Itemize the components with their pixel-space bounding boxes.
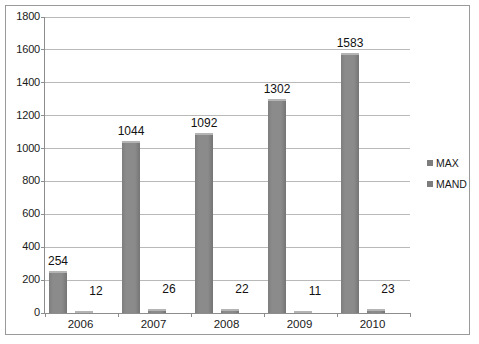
bar-mand-2006 — [75, 311, 93, 313]
x-axis: 20062007200820092010 — [44, 318, 410, 336]
bar-group: 109222 — [191, 17, 264, 313]
y-axis-tick-label: 1600 — [2, 44, 40, 55]
x-axis-tick-label: 2007 — [121, 318, 187, 331]
legend-item-mand[interactable]: MAND — [427, 176, 477, 192]
square-swatch-icon — [427, 181, 433, 187]
data-label-max-2010: 1583 — [323, 37, 377, 49]
bar-mand-2010 — [367, 309, 385, 313]
x-axis-tick-label: 2009 — [267, 318, 333, 331]
x-tick-mark — [264, 313, 265, 317]
bar-max-2006 — [49, 271, 67, 313]
y-axis-tick-label: 600 — [2, 208, 40, 219]
data-label-max-2006: 254 — [31, 255, 85, 267]
data-label-max-2008: 1092 — [177, 117, 231, 129]
bar-max-2008 — [195, 133, 213, 313]
bar-max-2007 — [122, 141, 140, 313]
x-tick-mark — [410, 313, 411, 317]
chart-legend: MAXMAND — [427, 155, 477, 197]
y-axis-tick-label: 1000 — [2, 143, 40, 154]
data-label-mand-2008: 22 — [215, 283, 269, 295]
data-label-mand-2006: 12 — [69, 285, 123, 297]
bar-mand-2009 — [294, 311, 312, 313]
x-tick-mark — [45, 313, 46, 317]
data-label-mand-2010: 23 — [361, 283, 415, 295]
y-axis-tick-label: 200 — [2, 274, 40, 285]
data-label-mand-2009: 11 — [288, 285, 342, 297]
y-axis-tick-label: 800 — [2, 175, 40, 186]
data-label-max-2007: 1044 — [104, 125, 158, 137]
legend-label: MAND — [436, 179, 467, 190]
bar-group: 130211 — [264, 17, 337, 313]
plot-area: 25412104426109222130211158323 — [44, 17, 410, 314]
x-axis-tick-label: 2008 — [194, 318, 260, 331]
x-tick-mark — [191, 313, 192, 317]
legend-item-max[interactable]: MAX — [427, 155, 477, 171]
square-swatch-icon — [427, 160, 433, 166]
bar-group: 25412 — [45, 17, 118, 313]
bar-group: 158323 — [337, 17, 410, 313]
legend-label: MAX — [436, 158, 459, 169]
bar-max-2009 — [268, 99, 286, 313]
bar-mand-2008 — [221, 309, 239, 313]
x-tick-mark — [337, 313, 338, 317]
data-label-mand-2007: 26 — [142, 283, 196, 295]
data-label-max-2009: 1302 — [250, 83, 304, 95]
x-tick-mark — [118, 313, 119, 317]
x-axis-tick-label: 2010 — [340, 318, 406, 331]
y-axis-tick-label: 0 — [2, 307, 40, 318]
y-axis-tick-label: 400 — [2, 241, 40, 252]
y-axis-tick-label: 1800 — [2, 11, 40, 22]
y-axis: 020040060080010001200140016001800 — [0, 17, 40, 314]
bar-max-2010 — [341, 53, 359, 313]
y-axis-tick-label: 1200 — [2, 110, 40, 121]
x-axis-tick-label: 2006 — [48, 318, 114, 331]
bar-mand-2007 — [148, 309, 166, 313]
bar-chart: 020040060080010001200140016001800 254121… — [0, 0, 479, 344]
y-axis-tick-label: 1400 — [2, 77, 40, 88]
bar-group: 104426 — [118, 17, 191, 313]
